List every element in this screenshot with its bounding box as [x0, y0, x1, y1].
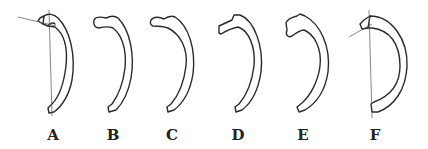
label-b: B	[107, 126, 120, 144]
panel-c	[150, 16, 193, 112]
panel-b	[94, 16, 133, 112]
guide-line-vertical-f	[369, 10, 372, 118]
rib-c	[150, 16, 193, 112]
label-f: F	[370, 126, 381, 144]
rib-b	[94, 16, 133, 112]
panel-e	[286, 14, 328, 112]
label-e: E	[297, 126, 308, 144]
rib-figure: A B C D E F	[0, 0, 428, 149]
rib-a	[43, 14, 73, 113]
rib-f	[368, 16, 407, 112]
guide-line-oblique-a	[18, 17, 56, 26]
panel-d	[219, 15, 262, 112]
panel-a	[18, 10, 73, 116]
rib-d	[219, 15, 262, 112]
panel-f	[349, 10, 407, 118]
rib-e	[286, 14, 328, 112]
label-c: C	[166, 126, 178, 144]
label-a: A	[46, 126, 59, 144]
label-d: D	[231, 126, 244, 144]
